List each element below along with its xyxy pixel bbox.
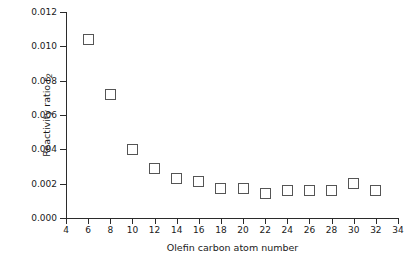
x-tick-label: 24 [282, 226, 293, 235]
data-point-marker [304, 185, 315, 196]
data-point-marker [193, 176, 204, 187]
x-tick-label: 16 [193, 226, 204, 235]
x-tick-label: 4 [63, 226, 69, 235]
data-point-marker [282, 185, 293, 196]
x-tick-mark [110, 218, 111, 224]
data-point-marker [370, 185, 381, 196]
x-tick-label: 14 [171, 226, 182, 235]
y-axis-title: Reactivity ratio r2 [42, 73, 53, 157]
data-point-marker [105, 89, 116, 100]
x-tick-mark [398, 218, 399, 224]
data-point-marker [215, 183, 226, 194]
x-tick-label: 20 [237, 226, 248, 235]
data-point-marker [171, 173, 182, 184]
y-tick-label: 0.000 [31, 214, 57, 223]
x-tick-label: 32 [370, 226, 381, 235]
y-axis-title-text: Reactivity ratio r [41, 78, 52, 157]
y-tick-label: 0.002 [31, 179, 57, 188]
x-tick-label: 6 [85, 226, 91, 235]
x-tick-mark [132, 218, 133, 224]
y-tick-mark [60, 149, 66, 150]
y-axis-title-subscript: 2 [45, 73, 54, 78]
x-axis-line [66, 218, 399, 219]
x-tick-label: 28 [326, 226, 337, 235]
x-tick-mark [354, 218, 355, 224]
y-tick-mark [60, 115, 66, 116]
y-tick-mark [60, 46, 66, 47]
x-tick-mark [221, 218, 222, 224]
data-point-marker [238, 183, 249, 194]
y-tick-mark [60, 12, 66, 13]
y-tick-mark [60, 81, 66, 82]
x-tick-mark [199, 218, 200, 224]
x-tick-label: 30 [348, 226, 359, 235]
data-point-marker [127, 144, 138, 155]
data-point-marker [348, 178, 359, 189]
x-tick-mark [376, 218, 377, 224]
x-tick-mark [243, 218, 244, 224]
x-tick-mark [287, 218, 288, 224]
x-tick-label: 34 [392, 226, 403, 235]
data-point-marker [149, 163, 160, 174]
y-tick-label: 0.010 [31, 42, 57, 51]
x-tick-label: 22 [259, 226, 270, 235]
y-tick-mark [60, 184, 66, 185]
x-tick-mark [265, 218, 266, 224]
x-tick-mark [66, 218, 67, 224]
x-axis-title: Olefin carbon atom number [66, 243, 399, 253]
x-tick-label: 18 [215, 226, 226, 235]
x-tick-label: 26 [304, 226, 315, 235]
x-tick-mark [309, 218, 310, 224]
x-tick-mark [155, 218, 156, 224]
data-point-marker [83, 34, 94, 45]
y-tick-label: 0.012 [31, 8, 57, 17]
x-tick-mark [332, 218, 333, 224]
x-tick-mark [88, 218, 89, 224]
scatter-plot-figure: 0.0000.0020.0040.0060.0080.0100.012 4681… [0, 0, 410, 264]
x-tick-label: 10 [127, 226, 138, 235]
x-tick-label: 12 [149, 226, 160, 235]
data-point-marker [260, 188, 271, 199]
x-tick-mark [177, 218, 178, 224]
data-point-marker [326, 185, 337, 196]
x-tick-label: 8 [107, 226, 113, 235]
